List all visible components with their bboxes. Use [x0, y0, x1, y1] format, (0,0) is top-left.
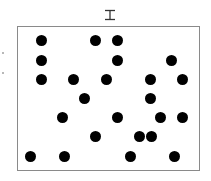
dot — [125, 151, 136, 162]
dot — [155, 112, 166, 123]
dot — [169, 151, 180, 162]
dot — [59, 151, 70, 162]
dot — [145, 93, 156, 104]
dot — [101, 74, 112, 85]
side-tick-mark — [2, 72, 4, 74]
i-beam-icon — [104, 6, 116, 18]
dot — [112, 112, 123, 123]
side-tick-mark — [2, 52, 4, 54]
dot — [112, 55, 123, 66]
dot — [90, 131, 101, 142]
dot — [36, 35, 47, 46]
dot-board-frame — [17, 26, 200, 171]
dot — [25, 151, 36, 162]
dot — [166, 55, 177, 66]
dot — [57, 112, 68, 123]
dot — [79, 93, 90, 104]
dot — [90, 35, 101, 46]
dot — [134, 131, 145, 142]
dot — [177, 112, 188, 123]
dot — [68, 74, 79, 85]
dot — [146, 131, 157, 142]
dot — [112, 35, 123, 46]
dot — [145, 74, 156, 85]
dot — [36, 74, 47, 85]
dot — [177, 74, 188, 85]
dot — [36, 55, 47, 66]
